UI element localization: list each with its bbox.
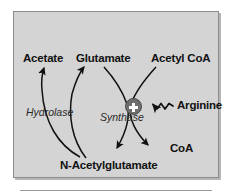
node-acetyl-coa: Acetyl CoA xyxy=(151,53,210,65)
wavy-activation-connector-icon xyxy=(153,104,173,110)
diagram-root: Acetate Glutamate Acetyl CoA Arginine Co… xyxy=(0,0,237,196)
enzyme-label-synthase: Synthase xyxy=(100,112,144,123)
node-n-acetylglutamate: N-Acetylglutamate xyxy=(60,160,158,172)
enzyme-label-hydrolase: Hydrolase xyxy=(26,107,73,118)
node-arginine: Arginine xyxy=(177,100,222,112)
node-glutamate: Glutamate xyxy=(76,53,130,65)
pathway-diagram-panel: Acetate Glutamate Acetyl CoA Arginine Co… xyxy=(13,11,219,178)
bottom-divider-rule xyxy=(20,190,212,191)
node-coa: CoA xyxy=(170,143,193,155)
node-acetate: Acetate xyxy=(23,53,63,65)
